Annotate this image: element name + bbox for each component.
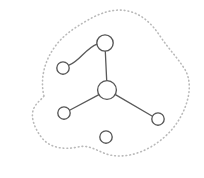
node-isolated[interactable] (100, 131, 112, 143)
edge-curved-upperleft-to-top (69, 44, 97, 65)
graph-diagram-canvas (0, 0, 204, 178)
edge-top-to-hub (105, 51, 106, 80)
graph-svg (0, 0, 204, 178)
node-group (57, 35, 164, 143)
node-upper-left[interactable] (57, 62, 69, 74)
node-top[interactable] (97, 35, 113, 51)
node-lower-right[interactable] (152, 113, 164, 125)
node-hub[interactable] (98, 81, 117, 100)
node-lower-left[interactable] (58, 107, 70, 119)
edge-hub-to-lowerleft (70, 95, 99, 111)
edge-hub-to-lowerright (115, 95, 152, 117)
edge-group (69, 44, 152, 116)
